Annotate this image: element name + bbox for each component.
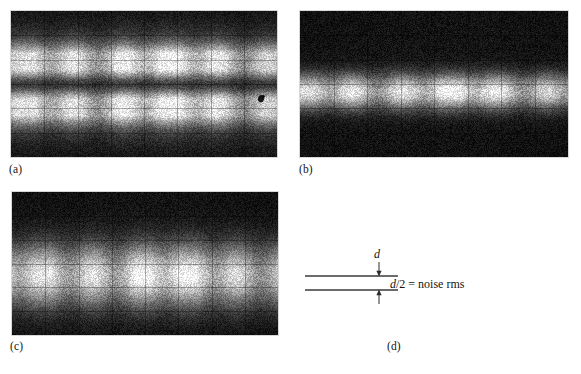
equation-remainder: /2 = noise rms	[396, 277, 464, 291]
panel-caption-b: (b)	[299, 163, 313, 175]
figure-root: (a) (b) (c) d d/2 = noise rms (d)	[0, 0, 581, 374]
scope-trace-c	[12, 192, 278, 335]
scope-trace-a	[11, 11, 277, 157]
scope-trace-b	[300, 11, 568, 157]
scope-panel-a	[11, 11, 277, 157]
d-dimension-label: d	[374, 247, 380, 262]
panel-caption-c: (c)	[10, 340, 23, 352]
scope-panel-c	[12, 192, 278, 335]
panel-caption-d: (d)	[387, 340, 401, 352]
scope-panel-b	[300, 11, 568, 157]
panel-caption-a: (a)	[9, 163, 22, 175]
noise-rms-equation: d/2 = noise rms	[390, 277, 464, 292]
noise-rms-diagram: d d/2 = noise rms	[290, 240, 570, 335]
